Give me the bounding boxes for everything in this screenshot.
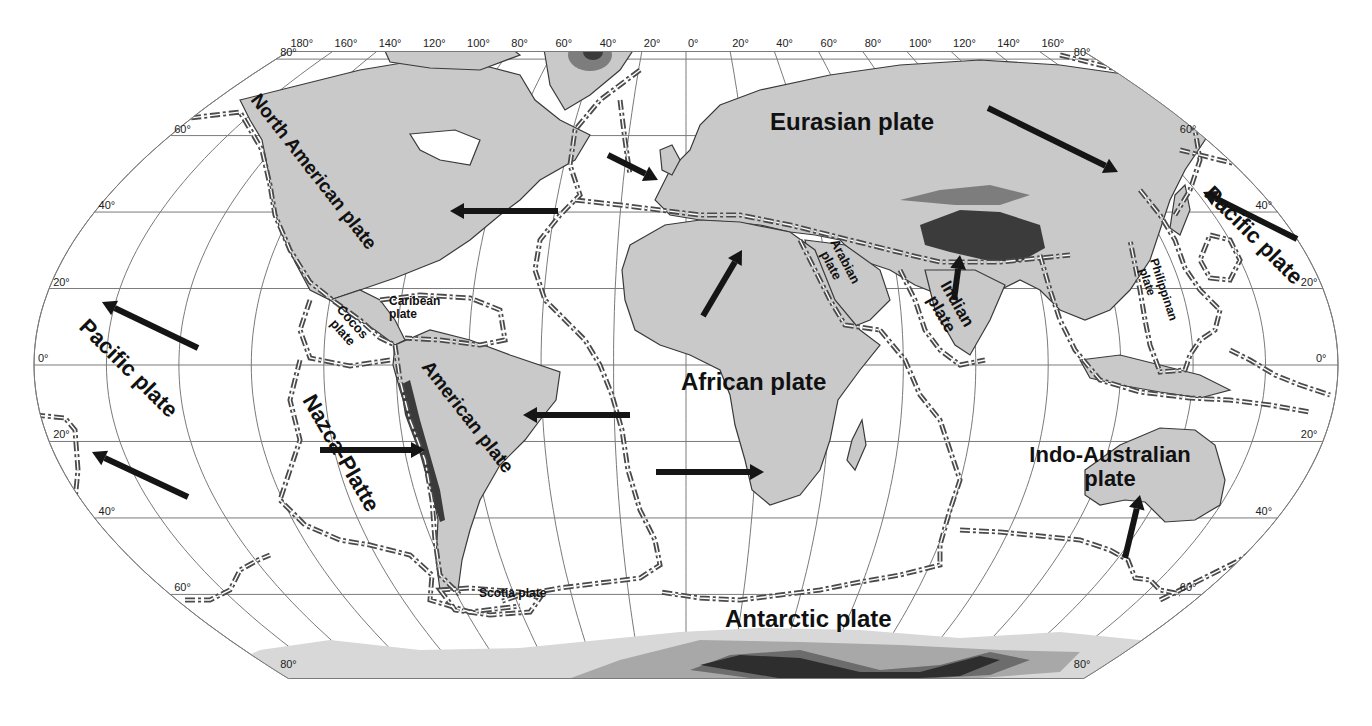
latitude-label-right: 80°: [1074, 46, 1091, 58]
latitude-label-right: 20°: [1301, 276, 1318, 288]
longitude-label: 140°: [997, 37, 1020, 49]
plate-label-text: Scotia plate: [479, 586, 547, 600]
latitude-label-right: 0°: [1316, 352, 1327, 364]
plate-label-scotia: Scotia plate: [479, 586, 547, 600]
latitude-label-left: 20°: [53, 276, 70, 288]
longitude-label: 60°: [821, 37, 838, 49]
new-zealand: [1245, 525, 1288, 555]
plate-label-text: African plate: [681, 368, 826, 395]
longitude-label: 60°: [555, 37, 572, 49]
longitude-label: 40°: [600, 37, 617, 49]
latitude-label-left: 40°: [99, 505, 116, 517]
plate-label-antarctic: Antarctic plate: [725, 605, 892, 632]
longitude-label: 100°: [909, 37, 932, 49]
latitude-label-right: 40°: [1255, 199, 1272, 211]
plate-label-text: Antarctic plate: [725, 605, 892, 632]
longitude-label: 80°: [865, 37, 882, 49]
longitude-label: 160°: [335, 37, 358, 49]
latitude-label-left: 60°: [174, 581, 191, 593]
latitude-label-left: 80°: [280, 658, 297, 670]
tectonic-plate-map: North American plateEurasian platePacifi…: [0, 0, 1372, 726]
longitude-label: 20°: [644, 37, 661, 49]
motion-arrow-eurasian-se-1: [608, 155, 658, 181]
plate-label-african: African plate: [681, 368, 826, 395]
tonga-boundary: [1230, 350, 1330, 395]
southeast-indian-ridge-inner: [960, 530, 1180, 594]
plate-label-eurasian: Eurasian plate: [770, 108, 934, 135]
longitude-label: 80°: [511, 37, 528, 49]
plate-label-line1: Caribean: [389, 294, 440, 308]
longitude-label: 100°: [467, 37, 490, 49]
motion-arrow-indo-australian-north: [1125, 495, 1145, 558]
latitude-label-right: 60°: [1180, 581, 1197, 593]
north-america-landmass: [240, 60, 590, 300]
latitude-label-left: 0°: [38, 352, 49, 364]
longitude-label: 40°: [776, 37, 793, 49]
plate-label-caribean: Caribeanplate: [389, 294, 440, 321]
longitude-label: 0°: [688, 37, 699, 49]
latitude-label-right: 80°: [1074, 658, 1091, 670]
world-map-canvas: North American plateEurasian platePacifi…: [0, 0, 1372, 726]
plate-label-text: Eurasian plate: [770, 108, 934, 135]
longitude-label: 160°: [1041, 37, 1064, 49]
latitude-label-right: 40°: [1255, 505, 1272, 517]
plate-label-line1: Indo-Australian: [1029, 442, 1190, 467]
plate-label-line2: plate: [1084, 466, 1135, 491]
longitude-label: 120°: [423, 37, 446, 49]
madagascar: [847, 420, 866, 470]
latitude-label-left: 20°: [53, 428, 70, 440]
latitude-label-right: 20°: [1301, 428, 1318, 440]
antarctica-edge: [200, 680, 1180, 684]
tonga-boundary-inner: [1230, 350, 1330, 395]
longitude-label: 120°: [953, 37, 976, 49]
latitude-label-left: 60°: [174, 123, 191, 135]
longitude-label: 140°: [379, 37, 402, 49]
latitude-label-right: 60°: [1180, 123, 1197, 135]
longitude-label: 20°: [732, 37, 749, 49]
plate-label-line2: plate: [389, 307, 417, 321]
latitude-label-left: 80°: [280, 46, 297, 58]
motion-arrow-pacific-nw-2: [92, 451, 188, 497]
latitude-label-left: 40°: [99, 199, 116, 211]
